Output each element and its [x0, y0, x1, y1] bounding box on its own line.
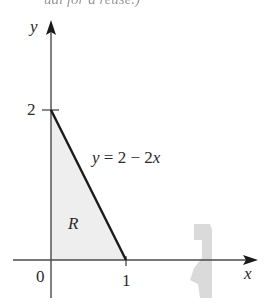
- equation-rhs: = 2 − 2: [104, 148, 153, 167]
- x-axis-label: x: [244, 265, 252, 282]
- equation-x-var: x: [153, 148, 161, 167]
- origin-label: 0: [36, 268, 45, 285]
- x-tick-label: 1: [122, 272, 131, 289]
- region-label: R: [68, 215, 78, 232]
- scan-artifact: [190, 224, 212, 298]
- y-axis-label: y: [30, 18, 38, 35]
- y-tick-label: 2: [27, 101, 36, 118]
- equation-label: y = 2 − 2x: [92, 149, 160, 166]
- equation-y-var: y: [92, 148, 100, 167]
